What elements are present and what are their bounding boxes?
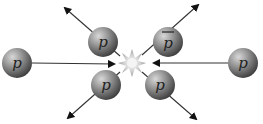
svg-text:p: p xyxy=(155,76,165,94)
svg-text:p: p xyxy=(101,76,111,94)
particle-incoming-left: p xyxy=(2,48,32,78)
incoming-arrow-left xyxy=(32,63,114,64)
antiproton-out-upper-right: p xyxy=(153,27,183,57)
particle-out-lower-right: p xyxy=(145,70,175,100)
particle-incoming-right: p xyxy=(228,48,258,78)
particle-out-lower-left: p xyxy=(91,70,121,100)
svg-text:p: p xyxy=(163,34,173,52)
svg-text:p: p xyxy=(238,54,248,72)
svg-text:p: p xyxy=(12,54,22,72)
collision-diagram: p p p p p p xyxy=(0,0,263,124)
particle-out-upper-left: p xyxy=(88,27,118,57)
svg-text:p: p xyxy=(98,33,108,51)
collision-burst-icon xyxy=(118,49,146,77)
